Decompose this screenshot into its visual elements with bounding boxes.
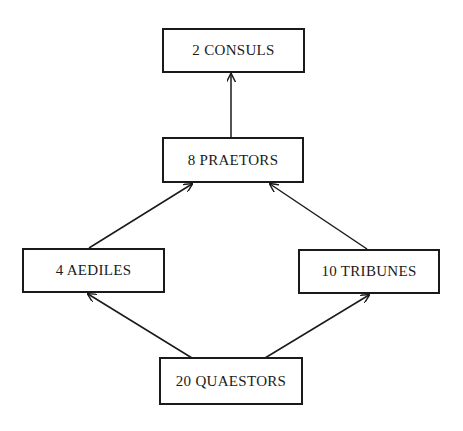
node-label-consuls: 2 CONSULS (192, 42, 274, 59)
node-label-tribunes: 10 TRIBUNES (321, 263, 416, 280)
arrow-aediles-to-praetors (89, 184, 192, 248)
node-label-quaestors: 20 QUAESTORS (176, 373, 286, 390)
node-consuls: 2 CONSULS (162, 28, 305, 73)
roman-cursus-honorum-diagram: 2 CONSULS 8 PRAETORS 4 AEDILES 10 TRIBUN… (0, 0, 463, 431)
node-label-praetors: 8 PRAETORS (188, 152, 279, 169)
node-label-aediles: 4 AEDILES (56, 262, 132, 279)
node-praetors: 8 PRAETORS (162, 137, 304, 183)
arrow-quaestors-to-aediles (88, 294, 192, 358)
arrow-tribunes-to-praetors (270, 184, 367, 249)
node-quaestors: 20 QUAESTORS (159, 357, 303, 405)
arrow-quaestors-to-tribunes (265, 295, 369, 358)
node-tribunes: 10 TRIBUNES (298, 249, 440, 294)
node-aediles: 4 AEDILES (22, 248, 165, 293)
